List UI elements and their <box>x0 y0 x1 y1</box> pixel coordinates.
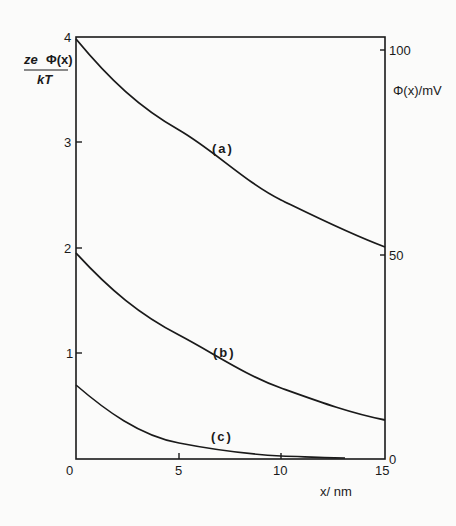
bottom-axis-ticks <box>179 453 281 459</box>
x-tick-5: 5 <box>175 463 182 478</box>
x-tick-15: 15 <box>375 463 389 478</box>
potential-chart: ze Φ(x) kT 4 3 2 1 0 5 10 15 100 50 0 Φ(… <box>0 0 456 526</box>
y-left-label-ze: ze <box>23 52 38 67</box>
y-right-tick-100: 100 <box>389 43 411 58</box>
y-left-tick-4: 4 <box>64 30 71 45</box>
y-right-label: Φ(x)/mV <box>393 83 442 98</box>
y-left-label-phi: Φ(x) <box>46 52 73 67</box>
x-axis-label: x/ nm <box>320 484 352 499</box>
y-left-tick-1: 1 <box>66 346 73 361</box>
plot-frame <box>76 37 385 459</box>
y-left-label-kt: kT <box>37 72 53 87</box>
y-left-tick-3: 3 <box>64 135 71 150</box>
y-left-tick-2: 2 <box>64 241 71 256</box>
curve-label-c: (c) <box>211 429 233 444</box>
curve-b <box>76 253 385 420</box>
curve-label-b: (b) <box>213 345 236 360</box>
y-right-tick-50: 50 <box>389 248 403 263</box>
curve-label-a: (a) <box>212 141 234 156</box>
x-tick-10: 10 <box>273 463 287 478</box>
x-tick-0: 0 <box>66 463 73 478</box>
y-right-tick-0: 0 <box>389 452 396 467</box>
left-axis-ticks <box>76 142 82 353</box>
